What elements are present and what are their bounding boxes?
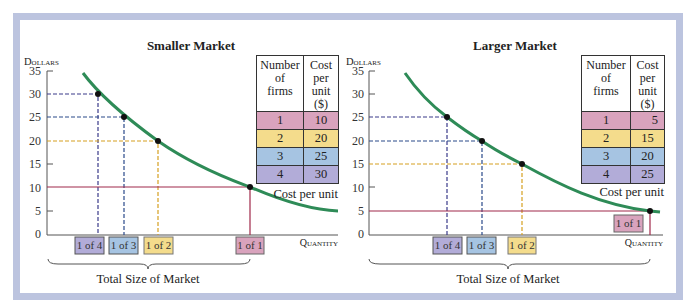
point-1-of-2 bbox=[519, 161, 525, 167]
data-points bbox=[95, 91, 253, 190]
header-text: ($) bbox=[304, 98, 338, 111]
y-tick-label: 35 bbox=[29, 64, 41, 78]
header-number-of-firms: Number of firms bbox=[582, 56, 631, 112]
guide-1-of-1 bbox=[47, 187, 250, 235]
x-axis-label: Quantity bbox=[300, 237, 338, 248]
guide-lines bbox=[369, 117, 522, 235]
y-tick-labels: 35 30 25 20 15 10 5 0 bbox=[352, 64, 364, 241]
cell-cost: 10 bbox=[304, 112, 339, 130]
share-box-label: 1 of 1 bbox=[237, 239, 263, 251]
chart-title: Larger Market bbox=[473, 38, 558, 53]
cell-firms: 1 bbox=[257, 112, 304, 130]
cell-cost: 25 bbox=[631, 166, 665, 184]
y-tick-label: 25 bbox=[29, 110, 41, 124]
share-box-label: 1 of 4 bbox=[77, 239, 103, 251]
brace-label: Total Size of Market bbox=[97, 272, 200, 286]
guide-lines bbox=[47, 94, 158, 235]
cell-firms: 4 bbox=[582, 166, 631, 184]
guide-1-of-4 bbox=[47, 94, 98, 235]
point-1-of-1 bbox=[647, 208, 653, 214]
guide-1-of-1 bbox=[369, 211, 650, 235]
cell-firms: 3 bbox=[582, 148, 631, 166]
header-cost-per-unit: Cost per unit ($) bbox=[631, 56, 665, 112]
point-1-of-4 bbox=[444, 114, 450, 120]
cell-cost: 15 bbox=[631, 130, 665, 148]
share-box-label: 1 of 3 bbox=[111, 239, 137, 251]
cell-cost: 30 bbox=[304, 166, 339, 184]
y-tick-label: 35 bbox=[352, 64, 364, 78]
y-tick-label: 30 bbox=[29, 87, 41, 101]
y-tick-label: 10 bbox=[352, 181, 364, 195]
table-row: 3 25 bbox=[257, 148, 339, 166]
y-tick-label: 10 bbox=[29, 181, 41, 195]
cell-cost: 20 bbox=[304, 130, 339, 148]
cell-firms: 2 bbox=[257, 130, 304, 148]
curve-label: Cost per unit bbox=[599, 185, 664, 199]
table-header-row: Number of firms Cost per unit ($) bbox=[582, 56, 665, 112]
y-tick-label: 15 bbox=[29, 157, 41, 171]
point-1-of-3 bbox=[121, 114, 127, 120]
table-row: 1 5 bbox=[582, 112, 665, 130]
table-row: 2 15 bbox=[582, 130, 665, 148]
market-brace bbox=[369, 259, 650, 269]
cell-cost: 5 bbox=[631, 112, 665, 130]
point-1-of-4 bbox=[95, 91, 101, 97]
market-brace bbox=[48, 259, 250, 269]
guide-1-of-3 bbox=[369, 141, 482, 235]
table-row: 3 20 bbox=[582, 148, 665, 166]
y-tick-label: 25 bbox=[352, 110, 364, 124]
table-row: 4 25 bbox=[582, 166, 665, 184]
table-row: 4 30 bbox=[257, 166, 339, 184]
cost-table-smaller: Number of firms Cost per unit ($) 1 10 2… bbox=[256, 55, 339, 184]
table-row: 1 10 bbox=[257, 112, 339, 130]
share-box-label: 1 of 4 bbox=[435, 239, 461, 251]
y-tick-label: 20 bbox=[29, 134, 41, 148]
curve-label: Cost per unit bbox=[273, 187, 338, 201]
header-text: firms bbox=[582, 85, 630, 98]
table-header-row: Number of firms Cost per unit ($) bbox=[257, 56, 339, 112]
cell-firms: 3 bbox=[257, 148, 304, 166]
y-tick-label: 15 bbox=[352, 157, 364, 171]
cell-firms: 2 bbox=[582, 130, 631, 148]
y-tick-label: 5 bbox=[35, 204, 41, 218]
cell-cost: 25 bbox=[304, 148, 339, 166]
share-box-label: 1 of 2 bbox=[146, 239, 172, 251]
header-text: ($) bbox=[631, 98, 664, 111]
share-box-label: 1 of 2 bbox=[509, 239, 535, 251]
cell-cost: 20 bbox=[631, 148, 665, 166]
y-tick-labels: 35 30 25 20 15 10 5 0 bbox=[29, 64, 41, 241]
header-number-of-firms: Number of firms bbox=[257, 56, 304, 112]
share-box-label: 1 of 1 bbox=[616, 217, 642, 229]
y-tick-label: 0 bbox=[35, 227, 41, 241]
cell-firms: 1 bbox=[582, 112, 631, 130]
share-box-label: 1 of 3 bbox=[469, 239, 495, 251]
y-tick-label: 5 bbox=[358, 204, 364, 218]
point-1-of-1 bbox=[247, 184, 253, 190]
point-1-of-3 bbox=[479, 138, 485, 144]
share-boxes: 1 of 4 1 of 3 1 of 2 1 of 1 bbox=[75, 237, 264, 254]
guide-1-of-4 bbox=[369, 117, 447, 235]
y-tick-label: 30 bbox=[352, 87, 364, 101]
chart-title: Smaller Market bbox=[147, 38, 236, 53]
guide-1-of-2 bbox=[369, 164, 522, 235]
header-text: firms bbox=[257, 85, 303, 98]
table-row: 2 20 bbox=[257, 130, 339, 148]
header-cost-per-unit: Cost per unit ($) bbox=[304, 56, 339, 112]
x-axis-label: Quantity bbox=[625, 237, 663, 248]
cost-table-larger: Number of firms Cost per unit ($) 1 5 2 … bbox=[581, 55, 665, 184]
point-1-of-2 bbox=[155, 138, 161, 144]
y-tick-label: 20 bbox=[352, 134, 364, 148]
y-tick-label: 0 bbox=[358, 227, 364, 241]
guide-1-of-3 bbox=[47, 117, 124, 235]
guide-1-of-2 bbox=[47, 141, 158, 235]
cell-firms: 4 bbox=[257, 166, 304, 184]
brace-label: Total Size of Market bbox=[457, 272, 560, 286]
